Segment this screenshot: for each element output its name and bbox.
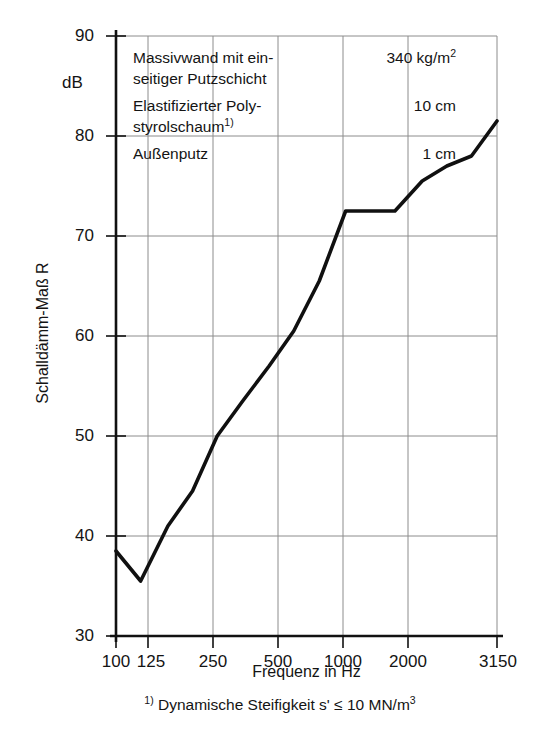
annotation-description: Außenputz bbox=[133, 144, 328, 165]
annotation-row: Massivwand mit ein- seitiger Putzschicht… bbox=[133, 48, 463, 89]
annotation-value-text: 10 cm bbox=[414, 97, 456, 114]
sound-insulation-chart: 90 dB 80 70 60 50 40 30 100 125 250 500 … bbox=[0, 0, 559, 736]
annotation-value-text: 1 cm bbox=[422, 145, 456, 162]
footnote-text: Dynamische Steifigkeit s' ≤ 10 MN/m bbox=[158, 696, 410, 713]
y-tick-label-90: 90 bbox=[50, 26, 94, 46]
annotation-row: Außenputz 1 cm bbox=[133, 144, 463, 165]
y-tick-label-50: 50 bbox=[50, 426, 94, 446]
annotation-description: Elastifizierter Poly- styrolschaum1) bbox=[133, 96, 328, 137]
y-tick-label-70: 70 bbox=[50, 226, 94, 246]
annotation-footnote-marker: 1) bbox=[224, 115, 233, 127]
y-tick-label-60: 60 bbox=[50, 326, 94, 346]
y-axis-unit-label: dB bbox=[62, 73, 83, 93]
annotation-spacer bbox=[133, 137, 463, 144]
annotation-description-line2: styrolschaum bbox=[133, 118, 224, 135]
footnote: 1) Dynamische Steifigkeit s' ≤ 10 MN/m3 bbox=[60, 696, 500, 714]
annotation-value: 340 kg/m2 bbox=[328, 48, 456, 69]
annotation-description-line1: Außenputz bbox=[133, 145, 208, 162]
footnote-exponent: 3 bbox=[410, 694, 416, 706]
data-series-curve bbox=[116, 121, 497, 581]
annotation-description-line2: seitiger Putzschicht bbox=[133, 70, 267, 87]
y-tick-label-40: 40 bbox=[50, 526, 94, 546]
x-axis-title: Frequenz in Hz bbox=[116, 663, 497, 681]
annotation-value: 10 cm bbox=[328, 96, 456, 117]
y-axis-title: Schalldämm-Maß R bbox=[34, 218, 52, 448]
footnote-marker: 1) bbox=[144, 694, 153, 706]
annotation-value-text: 340 kg/m bbox=[386, 49, 450, 66]
annotation-description-line1: Elastifizierter Poly- bbox=[133, 97, 261, 114]
annotation-spacer bbox=[133, 89, 463, 96]
specimen-annotation-block: Massivwand mit ein- seitiger Putzschicht… bbox=[133, 48, 463, 165]
annotation-description-line1: Massivwand mit ein- bbox=[133, 49, 273, 66]
y-tick-label-30: 30 bbox=[50, 626, 94, 646]
annotation-row: Elastifizierter Poly- styrolschaum1) 10 … bbox=[133, 96, 463, 137]
annotation-value-exponent: 2 bbox=[450, 47, 456, 59]
annotation-value: 1 cm bbox=[328, 144, 456, 165]
y-tick-label-80: 80 bbox=[50, 126, 94, 146]
annotation-description: Massivwand mit ein- seitiger Putzschicht bbox=[133, 48, 328, 89]
